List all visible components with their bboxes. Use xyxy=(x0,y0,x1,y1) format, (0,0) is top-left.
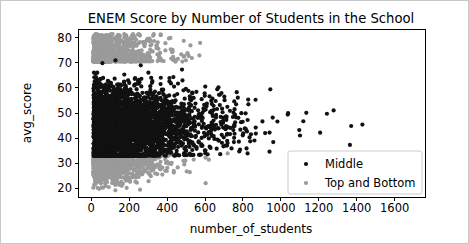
x-tick-label: 1200 xyxy=(304,201,333,215)
matplotlib-figure: ENEM Score by Number of Students in the … xyxy=(1,1,468,243)
x-axis-label: number_of_students xyxy=(190,222,313,236)
x-tick-label: 1400 xyxy=(342,201,371,215)
x-tick-label: 400 xyxy=(156,201,178,215)
y-tick-label: 20 xyxy=(57,181,72,195)
legend-marker xyxy=(304,181,308,185)
legend-label: Middle xyxy=(325,157,363,171)
x-tick-label: 1600 xyxy=(380,201,409,215)
y-tick-label: 80 xyxy=(57,31,72,45)
y-tick-label: 30 xyxy=(57,156,72,170)
chart-legend[interactable]: MiddleTop and Bottom xyxy=(288,151,422,194)
x-tick-label: 600 xyxy=(194,201,216,215)
x-tick-label: 200 xyxy=(118,201,140,215)
legend-marker xyxy=(304,162,308,166)
y-tick-label: 60 xyxy=(57,81,72,95)
y-tick-label: 70 xyxy=(57,56,72,70)
x-tick-label: 1000 xyxy=(266,201,295,215)
legend-label: Top and Bottom xyxy=(324,176,416,190)
y-tick-label: 40 xyxy=(57,131,72,145)
y-axis-label: avg_score xyxy=(20,83,34,143)
x-tick-label: 0 xyxy=(88,201,95,215)
y-tick-label: 50 xyxy=(57,106,72,120)
chart-title: ENEM Score by Number of Students in the … xyxy=(88,11,414,26)
screenshot-root: ENEM Score by Number of Students in the … xyxy=(0,0,469,244)
scatter-chart: ENEM Score by Number of Students in the … xyxy=(1,1,468,243)
x-tick-label: 800 xyxy=(232,201,254,215)
